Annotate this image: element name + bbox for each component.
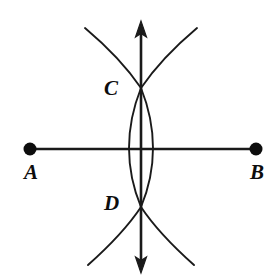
arc-lower-right — [141, 207, 194, 265]
point-b-dot — [250, 143, 263, 156]
point-label-c: C — [104, 78, 118, 99]
point-label-b: B — [250, 162, 264, 183]
geometry-figure: A B C D — [0, 0, 277, 278]
point-label-d: D — [104, 193, 119, 214]
arc-lens-left — [129, 88, 141, 207]
arc-lower-left — [88, 207, 141, 265]
arc-lens-right — [141, 88, 153, 207]
point-a-dot — [24, 143, 37, 156]
point-label-a: A — [24, 162, 38, 183]
arc-upper-right — [141, 28, 197, 88]
geometry-canvas — [0, 0, 277, 278]
